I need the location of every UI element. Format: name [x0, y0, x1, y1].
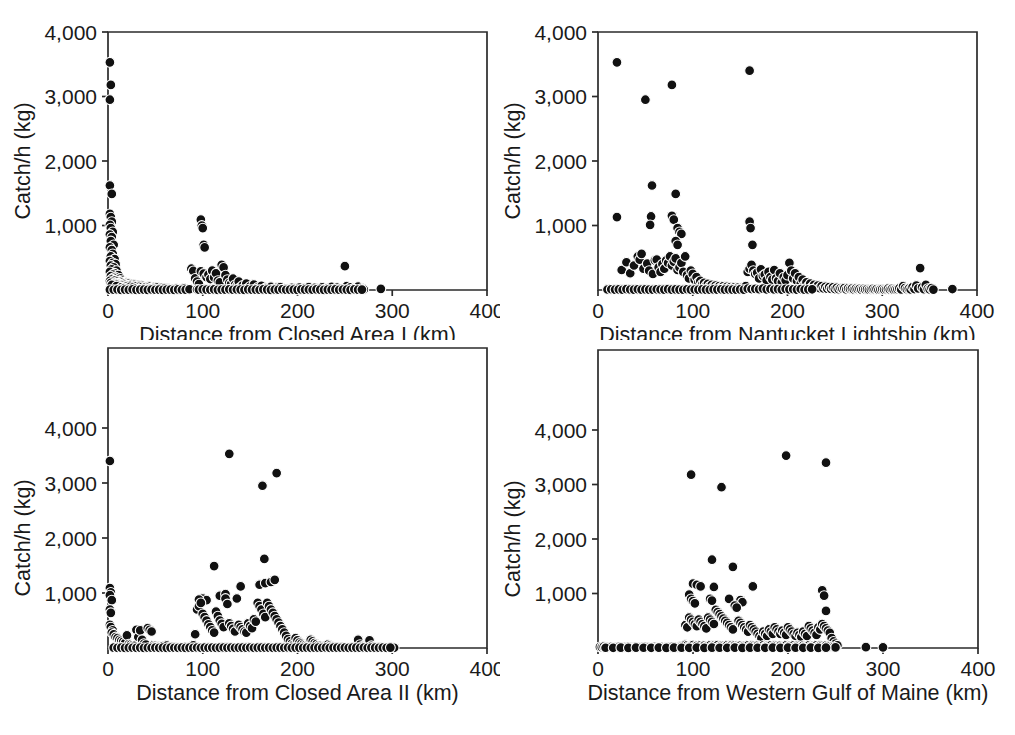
x-axis-title: Distance from Closed Area II (km) [136, 681, 459, 705]
data-point [640, 95, 650, 105]
data-point [209, 628, 219, 638]
scatter-panel-western-gulf-of-maine: 1,0002,0003,0004,000Catch/h (kg)01002003… [490, 340, 1015, 735]
x-tick-label: 0 [102, 657, 114, 680]
data-point [357, 285, 367, 295]
y-axis-title: Catch/h (kg) [501, 480, 525, 597]
x-tick-label: 100 [185, 657, 220, 680]
y-tick-label: 2,000 [534, 150, 587, 173]
scatter-panel-closed-area-ii: 1,0002,0003,0004,000Catch/h (kg)01002003… [0, 340, 500, 735]
plot-nantucket-lightship: 1,0002,0003,0004,000Catch/h (kg)01002003… [490, 0, 1015, 340]
data-point [251, 617, 261, 627]
plot-frame [108, 32, 487, 290]
data-point [673, 240, 683, 250]
data-point [105, 456, 115, 466]
data-points [105, 449, 399, 653]
data-point [709, 619, 719, 629]
x-tick-label: 0 [592, 657, 604, 680]
data-point [270, 575, 280, 585]
y-axis: 1,0002,0003,0004,000 [534, 419, 598, 606]
y-axis: 1,0002,0003,0004,000 [534, 21, 598, 238]
y-tick-label: 1,000 [534, 214, 587, 237]
y-tick-label: 2,000 [534, 528, 587, 551]
data-point [929, 285, 939, 295]
x-tick-label: 400 [960, 657, 995, 680]
data-point [147, 627, 157, 637]
plot-frame [108, 348, 487, 648]
x-tick-label: 300 [375, 657, 410, 680]
x-tick-label: 100 [185, 299, 220, 322]
data-point [106, 80, 116, 90]
data-point [707, 596, 717, 606]
data-point [748, 240, 758, 250]
data-point [781, 451, 791, 461]
x-tick-label: 200 [770, 299, 805, 322]
data-point [209, 561, 219, 571]
y-axis-title: Catch/h (kg) [11, 479, 35, 596]
data-point [707, 555, 717, 565]
data-point [107, 189, 117, 199]
data-point [709, 582, 719, 592]
y-tick-label: 1,000 [44, 582, 97, 605]
x-tick-label: 200 [770, 657, 805, 680]
data-point [696, 582, 706, 592]
y-tick-label: 4,000 [534, 419, 587, 442]
data-point [612, 212, 622, 222]
y-tick-label: 1,000 [534, 582, 587, 605]
data-point [819, 591, 829, 601]
x-tick-label: 100 [675, 657, 710, 680]
data-point [861, 642, 871, 652]
x-tick-label: 300 [865, 299, 900, 322]
data-point [717, 482, 727, 492]
data-point [224, 449, 234, 459]
data-point [645, 220, 655, 230]
data-point [686, 470, 696, 480]
data-point [385, 643, 395, 653]
y-axis-title: Catch/h (kg) [11, 102, 35, 219]
data-point [637, 249, 647, 259]
y-tick-label: 4,000 [44, 21, 97, 44]
data-point [746, 223, 756, 233]
data-point [647, 181, 657, 191]
data-point [105, 95, 115, 105]
x-tick-label: 0 [592, 299, 604, 322]
data-point [732, 603, 742, 613]
plot-western-gulf-of-maine: 1,0002,0003,0004,000Catch/h (kg)01002003… [490, 340, 1015, 735]
y-axis-title: Catch/h (kg) [501, 102, 525, 219]
data-point [667, 80, 677, 90]
data-point [821, 643, 831, 653]
x-tick-label: 100 [675, 299, 710, 322]
y-tick-label: 3,000 [534, 473, 587, 496]
plot-frame [598, 350, 978, 648]
data-points [603, 57, 958, 294]
scatter-panel-nantucket-lightship: 1,0002,0003,0004,000Catch/h (kg)01002003… [490, 0, 1015, 340]
data-point [745, 66, 755, 76]
data-point [748, 582, 758, 592]
data-point [821, 606, 831, 616]
x-axis-title: Distance from Nantucket Lightship (km) [599, 323, 975, 340]
x-tick-label: 300 [865, 657, 900, 680]
data-point [222, 599, 232, 609]
y-tick-label: 4,000 [44, 417, 97, 440]
data-point [915, 263, 925, 273]
data-point [105, 57, 115, 67]
y-tick-label: 4,000 [534, 21, 587, 44]
data-point [196, 598, 206, 608]
data-point [198, 223, 208, 233]
data-points [595, 451, 888, 653]
data-point [831, 643, 841, 653]
data-point [821, 458, 831, 468]
data-point [690, 598, 700, 608]
y-tick-label: 2,000 [44, 527, 97, 550]
y-tick-label: 1,000 [44, 214, 97, 237]
data-point [728, 562, 738, 572]
y-axis: 1,0002,0003,0004,000 [44, 21, 108, 238]
y-tick-label: 3,000 [44, 85, 97, 108]
x-tick-label: 0 [102, 299, 114, 322]
data-point [106, 608, 116, 618]
data-point [680, 252, 690, 262]
data-point [200, 243, 210, 253]
data-point [190, 629, 200, 639]
data-point [340, 261, 350, 271]
x-tick-label: 400 [959, 299, 994, 322]
figure-container: 1,0002,0003,0004,000Catch/h (kg)01002003… [0, 0, 1015, 735]
